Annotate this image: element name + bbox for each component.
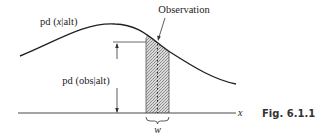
x-axis-label: x — [237, 107, 243, 118]
observation-pointer — [157, 18, 165, 41]
curve-label: pd (x|alt) — [40, 16, 78, 28]
height-indicator — [113, 42, 146, 113]
width-brace — [146, 117, 169, 124]
density-curve — [20, 24, 236, 84]
figure-caption: Fig. 6.1.1 — [262, 108, 315, 119]
height-label: pd (obs|alt) — [62, 75, 110, 87]
probability-density-diagram: x pd (x|alt) pd (obs|alt) Observation w … — [0, 0, 318, 136]
observation-label: Observation — [158, 4, 210, 15]
width-label: w — [154, 124, 161, 135]
observation-strip — [146, 20, 169, 113]
